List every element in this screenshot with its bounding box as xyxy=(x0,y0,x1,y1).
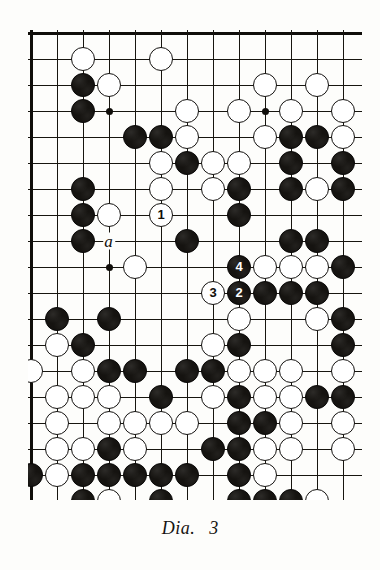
numbered-move-stone: 4 xyxy=(227,255,251,279)
white-stone xyxy=(45,463,69,487)
black-stone xyxy=(71,333,95,357)
black-stone xyxy=(45,307,69,331)
gridline-horizontal xyxy=(28,32,362,35)
black-stone xyxy=(331,333,355,357)
black-stone xyxy=(331,255,355,279)
white-stone xyxy=(71,385,95,409)
move-number: 2 xyxy=(235,286,242,299)
numbered-move-stone: 2 xyxy=(227,281,251,305)
white-stone xyxy=(253,437,277,461)
black-stone xyxy=(71,99,95,123)
white-stone xyxy=(149,411,173,435)
black-stone xyxy=(331,177,355,201)
white-stone xyxy=(97,203,121,227)
white-stone xyxy=(279,411,303,435)
black-stone xyxy=(97,463,121,487)
black-stone xyxy=(149,125,173,149)
white-stone xyxy=(71,437,95,461)
star-point xyxy=(262,108,269,115)
white-stone xyxy=(253,125,277,149)
black-stone xyxy=(227,203,251,227)
black-stone xyxy=(227,437,251,461)
black-stone xyxy=(175,463,199,487)
black-stone xyxy=(279,281,303,305)
white-stone xyxy=(279,99,303,123)
diagram-page: 1234 a Dia.3 xyxy=(0,0,380,570)
white-stone xyxy=(45,333,69,357)
black-stone xyxy=(227,385,251,409)
white-stone xyxy=(201,177,225,201)
white-stone xyxy=(331,359,355,383)
go-board-figure: 1234 a Dia.3 xyxy=(0,0,380,570)
black-stone xyxy=(305,385,329,409)
black-stone xyxy=(97,437,121,461)
white-stone xyxy=(253,73,277,97)
white-stone xyxy=(28,359,43,383)
black-stone xyxy=(123,463,147,487)
white-stone xyxy=(253,359,277,383)
white-stone xyxy=(305,489,329,500)
white-stone xyxy=(45,411,69,435)
black-stone xyxy=(331,151,355,175)
gridline-vertical xyxy=(30,30,33,500)
black-stone xyxy=(227,411,251,435)
white-stone xyxy=(149,177,173,201)
black-stone xyxy=(227,463,251,487)
white-stone xyxy=(227,151,251,175)
black-stone xyxy=(279,489,303,500)
white-stone xyxy=(279,437,303,461)
black-stone xyxy=(97,359,121,383)
white-stone xyxy=(123,255,147,279)
white-stone xyxy=(331,437,355,461)
black-stone xyxy=(97,307,121,331)
caption-number: 3 xyxy=(209,518,218,538)
white-stone xyxy=(331,99,355,123)
white-stone xyxy=(279,385,303,409)
white-stone xyxy=(201,385,225,409)
star-point xyxy=(106,264,113,271)
white-stone xyxy=(279,359,303,383)
black-stone xyxy=(123,359,147,383)
white-stone xyxy=(253,463,277,487)
white-stone xyxy=(227,99,251,123)
black-stone xyxy=(71,177,95,201)
white-stone xyxy=(331,411,355,435)
black-stone xyxy=(253,411,277,435)
black-stone xyxy=(175,151,199,175)
white-stone xyxy=(45,437,69,461)
white-stone xyxy=(253,255,277,279)
white-stone xyxy=(149,151,173,175)
black-stone xyxy=(227,489,251,500)
move-number: 3 xyxy=(209,286,216,299)
black-stone xyxy=(227,177,251,201)
black-stone xyxy=(227,333,251,357)
white-stone xyxy=(279,255,303,279)
white-stone xyxy=(305,73,329,97)
white-stone xyxy=(201,151,225,175)
caption-label: Dia. xyxy=(162,518,196,538)
white-stone xyxy=(71,47,95,71)
black-stone xyxy=(305,229,329,253)
black-stone xyxy=(279,177,303,201)
go-board-grid: 1234 a xyxy=(28,30,362,500)
white-stone xyxy=(97,411,121,435)
black-stone xyxy=(149,385,173,409)
black-stone xyxy=(331,385,355,409)
gridline-vertical xyxy=(213,30,214,500)
black-stone xyxy=(253,489,277,500)
move-number: 4 xyxy=(235,260,242,273)
black-stone xyxy=(71,463,95,487)
black-stone xyxy=(305,281,329,305)
white-stone xyxy=(305,307,329,331)
numbered-move-stone: 3 xyxy=(201,281,225,305)
black-stone xyxy=(175,359,199,383)
white-stone xyxy=(305,255,329,279)
white-stone xyxy=(227,359,251,383)
black-stone xyxy=(149,489,173,500)
black-stone xyxy=(305,125,329,149)
white-stone xyxy=(97,489,121,500)
white-stone xyxy=(97,73,121,97)
black-stone xyxy=(201,359,225,383)
white-stone xyxy=(97,385,121,409)
numbered-move-stone: 1 xyxy=(149,203,173,227)
